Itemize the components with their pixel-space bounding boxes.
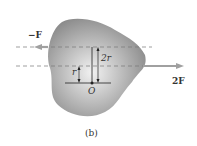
- distance-2r-label: 2r: [101, 53, 111, 63]
- force-neg-f-arrowhead: [34, 44, 42, 50]
- figure: −F 2F 2r r O (b): [0, 0, 197, 146]
- force-2f-label: 2F: [172, 76, 185, 86]
- rigid-body: [48, 19, 146, 116]
- distance-r-label: r: [72, 67, 76, 77]
- force-neg-f-label: −F: [28, 30, 42, 40]
- origin-point: [91, 82, 94, 85]
- figure-caption: (b): [85, 128, 98, 138]
- origin-label: O: [88, 86, 95, 96]
- force-2f-arrowhead: [176, 63, 184, 69]
- rigid-body-diagram: [0, 0, 197, 146]
